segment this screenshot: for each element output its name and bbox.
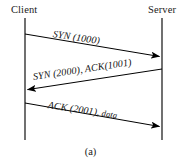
sequence-diagram [0, 0, 181, 165]
lifeline-label-client: Client [11, 4, 37, 15]
figure-caption: (a) [0, 146, 181, 157]
figure-container: Client Server SYN (1000) SYN (2000), ACK… [0, 0, 181, 165]
lifeline-label-server: Server [148, 4, 176, 15]
